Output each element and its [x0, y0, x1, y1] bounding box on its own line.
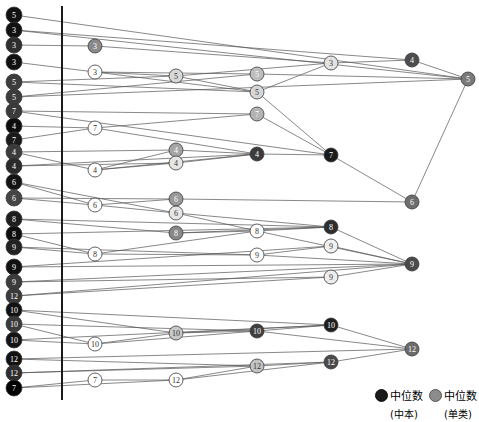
graph-node[interactable]: 5: [6, 74, 22, 90]
node-circle: [324, 148, 338, 162]
graph-node[interactable]: 6: [169, 206, 183, 220]
legend-text-block: 中位数 (中本): [390, 386, 423, 422]
graph-node[interactable]: 4: [6, 158, 22, 174]
graph-edge: [176, 76, 257, 92]
graph-node[interactable]: 8: [88, 247, 102, 261]
graph-edge: [331, 325, 412, 349]
graph-node[interactable]: 8: [250, 224, 264, 238]
graph-node[interactable]: 12: [324, 355, 338, 369]
graph-node[interactable]: 7: [250, 107, 264, 121]
node-circle: [250, 85, 264, 99]
graph-edge: [257, 92, 331, 155]
node-circle: [405, 342, 419, 356]
node-circle: [6, 365, 22, 381]
graph-node[interactable]: 3: [6, 22, 22, 38]
node-circle: [6, 103, 22, 119]
graph-node[interactable]: 5: [169, 69, 183, 83]
graph-node[interactable]: 3: [88, 65, 102, 79]
graph-node[interactable]: 8: [324, 220, 338, 234]
node-circle: [250, 324, 264, 338]
graph-node[interactable]: 9: [6, 239, 22, 255]
node-circle: [169, 143, 183, 157]
graph-node[interactable]: 10: [324, 318, 338, 332]
graph-edge: [14, 264, 412, 296]
graph-node[interactable]: 7: [88, 121, 102, 135]
graph-node[interactable]: 4: [169, 143, 183, 157]
node-circle: [250, 248, 264, 262]
node-circle: [88, 39, 102, 53]
graph-node[interactable]: 4: [88, 163, 102, 177]
graph-node[interactable]: 3: [6, 54, 22, 70]
graph-node[interactable]: 10: [250, 324, 264, 338]
graph-node[interactable]: 7: [6, 103, 22, 119]
graph-node[interactable]: 4: [169, 156, 183, 170]
graph-node[interactable]: 6: [88, 198, 102, 212]
graph-node[interactable]: 3: [6, 37, 22, 53]
graph-node[interactable]: 12: [250, 359, 264, 373]
graph-node[interactable]: 10: [6, 316, 22, 332]
node-circle: [405, 53, 419, 67]
graph-node[interactable]: 9: [405, 257, 419, 271]
graph-node[interactable]: 5: [461, 72, 475, 86]
graph-node[interactable]: 7: [88, 373, 102, 387]
graph-node[interactable]: 12: [169, 373, 183, 387]
graph-edge: [257, 154, 331, 155]
graph-node[interactable]: 8: [6, 211, 22, 227]
graph-node[interactable]: 5: [250, 67, 264, 81]
legend-item-light: 中位数 (单类): [429, 386, 477, 422]
node-circle: [6, 74, 22, 90]
node-circle: [250, 107, 264, 121]
graph-node[interactable]: 6: [405, 195, 419, 209]
node-circle: [88, 121, 102, 135]
graph-node[interactable]: 5: [6, 7, 22, 23]
node-circle: [6, 89, 22, 105]
graph-edge: [331, 227, 412, 264]
graph-node[interactable]: 7: [6, 380, 22, 396]
graph-node[interactable]: 4: [250, 147, 264, 161]
graph-node[interactable]: 12: [6, 365, 22, 381]
node-circle: [169, 69, 183, 83]
graph-node[interactable]: 7: [324, 148, 338, 162]
node-circle: [169, 373, 183, 387]
graph-node[interactable]: 10: [6, 332, 22, 348]
graph-node[interactable]: 6: [169, 192, 183, 206]
graph-edge: [14, 380, 95, 388]
graph-node[interactable]: 12: [405, 342, 419, 356]
graph-edge: [14, 30, 412, 60]
graph-node[interactable]: 5: [250, 85, 264, 99]
legend: 中位数 (中本) 中位数 (单类): [375, 386, 477, 422]
node-circle: [324, 239, 338, 253]
node-circle: [88, 247, 102, 261]
graph-node[interactable]: 10: [169, 326, 183, 340]
graph-node[interactable]: 5: [6, 89, 22, 105]
legend-text-block-2: 中位数 (单类): [444, 386, 477, 422]
graph-node[interactable]: 9: [250, 248, 264, 262]
dark-circle-icon: [375, 389, 388, 402]
node-circle: [324, 56, 338, 70]
graph-edge: [257, 331, 412, 349]
graph-edge: [14, 62, 95, 72]
graph-node[interactable]: 6: [6, 174, 22, 190]
graph-node[interactable]: 3: [324, 56, 338, 70]
graph-node[interactable]: 8: [169, 226, 183, 240]
graph-node[interactable]: 4: [405, 53, 419, 67]
legend-label-light: 中位数: [444, 390, 477, 403]
node-circle: [250, 147, 264, 161]
node-circle: [405, 195, 419, 209]
node-circle: [405, 257, 419, 271]
node-circle: [324, 270, 338, 284]
graph-node[interactable]: 10: [88, 337, 102, 351]
merge-graph: 5333557474466889991210101012127337468107…: [0, 0, 479, 422]
graph-node[interactable]: 6: [6, 190, 22, 206]
graph-node[interactable]: 9: [6, 259, 22, 275]
graph-node[interactable]: 9: [324, 239, 338, 253]
legend-item-dark: 中位数 (中本): [375, 386, 423, 422]
node-circle: [169, 192, 183, 206]
node-circle: [250, 224, 264, 238]
graph-edge: [14, 82, 257, 92]
node-circle: [324, 220, 338, 234]
graph-edge: [176, 154, 257, 163]
graph-node[interactable]: 3: [88, 39, 102, 53]
graph-node[interactable]: 9: [324, 270, 338, 284]
node-circle: [324, 355, 338, 369]
